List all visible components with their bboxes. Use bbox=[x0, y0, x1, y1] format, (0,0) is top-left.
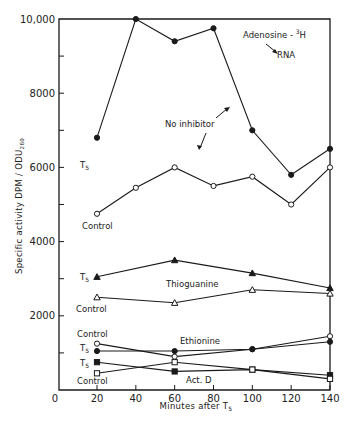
y-tick-label: 8000 bbox=[30, 88, 55, 99]
open-circle-marker bbox=[327, 165, 332, 170]
filled-square-marker bbox=[172, 369, 177, 374]
series-line bbox=[97, 167, 330, 213]
open-circle-marker bbox=[94, 341, 99, 346]
x-tick-label: 100 bbox=[243, 393, 262, 404]
open-circle-marker bbox=[289, 202, 294, 207]
open-circle-marker bbox=[172, 165, 177, 170]
open-circle-marker bbox=[250, 174, 255, 179]
x-axis-title: Minutes after T5 bbox=[160, 401, 233, 412]
filled-circle-marker bbox=[211, 26, 216, 31]
series-line bbox=[97, 19, 330, 175]
filled-circle-marker bbox=[133, 16, 138, 21]
x-tick-label: 120 bbox=[282, 393, 301, 404]
actd-label: Act. D bbox=[186, 375, 212, 385]
x-tick-label: 0 bbox=[52, 393, 58, 404]
y-tick-label: 10,000 bbox=[20, 14, 55, 25]
open-circle-marker bbox=[133, 185, 138, 190]
filled-circle-marker bbox=[172, 39, 177, 44]
x-tick-label: 40 bbox=[129, 393, 142, 404]
thioguanine-label: Thioguanine bbox=[165, 279, 219, 289]
filled-circle-marker bbox=[94, 135, 99, 140]
open-square-marker bbox=[250, 367, 255, 372]
y-tick-label: 2000 bbox=[30, 310, 55, 321]
series-no-inhibitor-t5 bbox=[94, 16, 332, 177]
chart-figure: 200040006000800010,000020406080100120140… bbox=[0, 0, 347, 421]
arrowhead-icon bbox=[224, 107, 230, 112]
filled-triangle-marker bbox=[171, 257, 177, 263]
plot-area: 200040006000800010,000020406080100120140… bbox=[0, 0, 347, 421]
filled-circle-marker bbox=[250, 347, 255, 352]
x-tick-label: 140 bbox=[320, 393, 339, 404]
label-t5-thioguanine: T5 bbox=[79, 272, 89, 283]
no-inhibitor-label: No inhibitor bbox=[165, 119, 215, 129]
series-line bbox=[97, 290, 330, 303]
open-square-marker bbox=[172, 360, 177, 365]
open-circle-marker bbox=[94, 211, 99, 216]
series-thioguanine-control bbox=[94, 287, 333, 306]
filled-square-marker bbox=[94, 360, 99, 365]
label-t5-no-inhibitor: T5 bbox=[79, 160, 89, 171]
series-layer bbox=[94, 16, 333, 381]
open-circle-marker bbox=[211, 183, 216, 188]
open-circle-marker bbox=[327, 334, 332, 339]
filled-circle-marker bbox=[250, 128, 255, 133]
title-rna: RNA bbox=[277, 50, 295, 60]
label-control-no-inhibitor: Control bbox=[82, 221, 113, 231]
filled-circle-marker bbox=[289, 172, 294, 177]
y-axis-title: Specific activity DPM / ODU260 bbox=[14, 138, 25, 274]
ethionine-label: Ethionine bbox=[180, 336, 220, 346]
label-t5-ethionine: T5 bbox=[79, 343, 89, 354]
open-circle-marker bbox=[172, 354, 177, 359]
y-tick-label: 4000 bbox=[30, 236, 55, 247]
y-tick-label: 6000 bbox=[30, 162, 55, 173]
filled-circle-marker bbox=[327, 339, 332, 344]
filled-circle-marker bbox=[327, 146, 332, 151]
x-tick-label: 20 bbox=[91, 393, 104, 404]
label-control-thioguanine: Control bbox=[76, 304, 107, 314]
filled-circle-marker bbox=[94, 348, 99, 353]
no-inhibitor-arrow-down bbox=[200, 133, 206, 148]
filled-circle-marker bbox=[172, 348, 177, 353]
label-control-ethionine: Control bbox=[77, 329, 108, 339]
title-annotation: Adenosine - 3H bbox=[243, 28, 306, 40]
label-control-actd: Control bbox=[77, 376, 108, 386]
open-square-marker bbox=[327, 376, 332, 381]
series-no-inhibitor-control bbox=[94, 165, 332, 217]
label-t5-actd: T5 bbox=[79, 358, 89, 369]
